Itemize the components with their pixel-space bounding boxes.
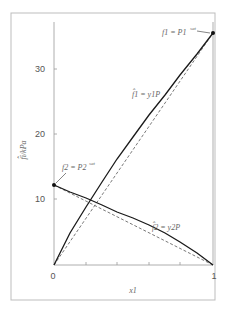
annot-f2-sat-sup: sat	[89, 161, 95, 166]
x-tick-label-0: 0	[50, 271, 55, 281]
y-axis-title: f̂i/kPa	[17, 140, 28, 159]
f2-sat-point	[52, 183, 56, 187]
annot-f1-ideal: f̂1 = y1P	[132, 88, 160, 99]
annot-f1-sat: f1 = P1	[162, 28, 187, 37]
annot-f1-sat-sup: sat	[190, 26, 196, 31]
x-axis-title: x1	[128, 286, 137, 295]
annot-f2-ideal: f̂2 = y2P	[152, 221, 180, 232]
annot-f2-sat: f2 = P2	[62, 163, 87, 172]
f1-sat-point	[211, 31, 215, 35]
y-tick-label-10: 10	[35, 194, 45, 204]
y-tick-label-20: 20	[35, 129, 45, 139]
figure-frame	[11, 13, 215, 300]
y-tick-label-30: 30	[35, 64, 45, 74]
x-tick-label-1: 1	[211, 271, 216, 281]
fugacity-chart: 30 20 10 0 1 x1 f̂i/kPa f1 = P1 sat f̂1 …	[0, 0, 235, 313]
